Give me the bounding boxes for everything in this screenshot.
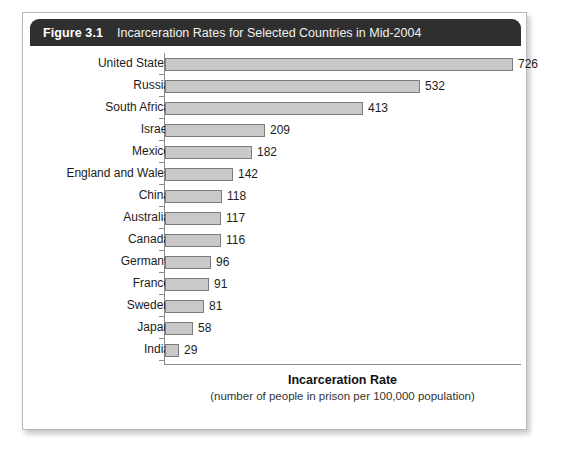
chart-row: Mexico182 [23, 141, 528, 163]
bar [165, 256, 211, 269]
bar-group: 142 [165, 167, 258, 181]
x-axis-title: Incarceration Rate [164, 373, 521, 387]
bar [165, 80, 420, 93]
chart-row: Israel209 [23, 119, 528, 141]
bar-value-label: 118 [227, 189, 246, 203]
bar-value-label: 81 [209, 299, 222, 313]
bar-group: 117 [165, 211, 245, 225]
bar-value-label: 209 [270, 123, 290, 137]
bar-value-label: 58 [198, 321, 211, 335]
category-label: Mexico [10, 144, 170, 158]
x-axis-line [164, 364, 521, 365]
bar-group: 91 [165, 277, 227, 291]
bar-group: 209 [165, 123, 290, 137]
bar [165, 146, 252, 159]
bar-group: 532 [165, 79, 445, 93]
chart-row: Japan58 [23, 317, 528, 339]
bar-group: 182 [165, 145, 277, 159]
bar [165, 212, 221, 225]
chart-row: Canada116 [23, 229, 528, 251]
bar [165, 102, 363, 115]
chart-row: South Africa413 [23, 97, 528, 119]
bar [165, 190, 222, 203]
figure-card: Figure 3.1 Incarceration Rates for Selec… [22, 12, 527, 430]
bar-group: 116 [165, 233, 245, 247]
category-label: India [10, 342, 170, 356]
x-axis-subtitle: (number of people in prison per 100,000 … [164, 390, 521, 402]
chart-row: England and Wales142 [23, 163, 528, 185]
category-label: Canada [10, 232, 170, 246]
chart-row: Russia532 [23, 75, 528, 97]
bar [165, 124, 265, 137]
bar-value-label: 142 [238, 167, 258, 181]
chart-row: France91 [23, 273, 528, 295]
bar-value-label: 117 [226, 211, 245, 225]
bar-chart-plot: United States726Russia532South Africa413… [23, 53, 528, 428]
figure-header: Figure 3.1 Incarceration Rates for Selec… [30, 19, 521, 46]
chart-row: India29 [23, 339, 528, 361]
bar-value-label: 726 [518, 57, 538, 71]
category-label: Russia [10, 78, 170, 92]
chart-row: Australia117 [23, 207, 528, 229]
category-label: South Africa [10, 100, 170, 114]
category-label: Japan [10, 320, 170, 334]
bar-value-label: 413 [368, 101, 388, 115]
chart-row: Germany96 [23, 251, 528, 273]
bar-group: 81 [165, 299, 222, 313]
bar [165, 344, 179, 357]
bar [165, 322, 193, 335]
bar [165, 234, 221, 247]
bar-group: 96 [165, 255, 229, 269]
bar-group: 726 [165, 57, 538, 71]
chart-row: Sweden81 [23, 295, 528, 317]
category-label: England and Wales [10, 166, 170, 180]
bar [165, 300, 204, 313]
bar [165, 58, 513, 71]
bar-group: 118 [165, 189, 246, 203]
bar [165, 278, 209, 291]
chart-row: China118 [23, 185, 528, 207]
bar-value-label: 96 [216, 255, 229, 269]
axis-tick [159, 360, 164, 361]
bar-value-label: 91 [214, 277, 227, 291]
figure-caption: Incarceration Rates for Selected Countri… [117, 26, 421, 40]
bar-value-label: 116 [226, 233, 245, 247]
category-label: United States [10, 56, 170, 70]
bar-value-label: 532 [425, 79, 445, 93]
bar-group: 58 [165, 321, 211, 335]
figure-number: Figure 3.1 [43, 26, 103, 40]
category-label: Australia [10, 210, 170, 224]
bar [165, 168, 233, 181]
category-label: France [10, 276, 170, 290]
chart-rows: United States726Russia532South Africa413… [23, 53, 528, 361]
category-label: Germany [10, 254, 170, 268]
bar-group: 29 [165, 343, 197, 357]
category-label: Sweden [10, 298, 170, 312]
bar-value-label: 29 [184, 343, 197, 357]
bar-value-label: 182 [257, 145, 277, 159]
category-label: Israel [10, 122, 170, 136]
bar-group: 413 [165, 101, 388, 115]
category-label: China [10, 188, 170, 202]
axis-caption: Incarceration Rate (number of people in … [164, 373, 521, 402]
chart-row: United States726 [23, 53, 528, 75]
